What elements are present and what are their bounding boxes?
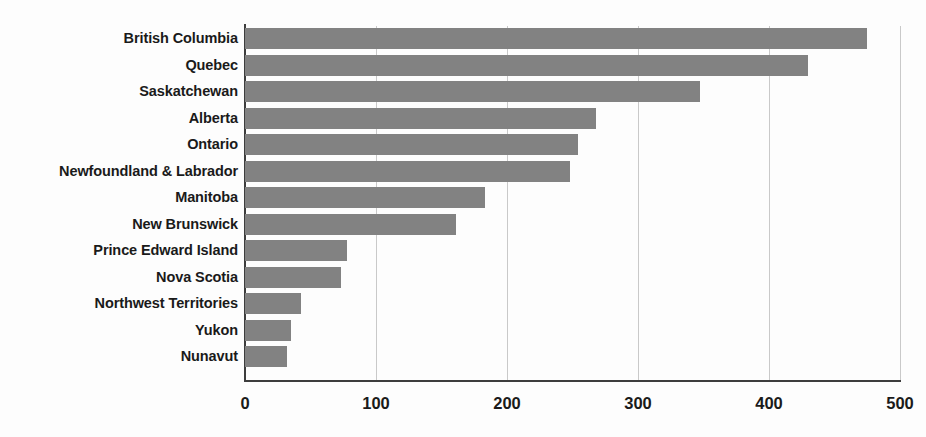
bar [245,187,485,208]
category-label: Manitoba [0,187,238,208]
category-label: Nunavut [0,346,238,367]
bar-item [245,187,485,208]
bar [245,320,291,341]
category-label: New Brunswick [0,214,238,235]
bar-item [245,134,578,155]
plot-area [245,26,900,380]
x-tick-label: 100 [362,392,390,414]
category-label: British Columbia [0,28,238,49]
bar-item [245,81,700,102]
bar [245,240,347,261]
bar [245,346,287,367]
x-tick-label: 400 [755,392,783,414]
category-label: Ontario [0,134,238,155]
bar [245,28,867,49]
x-tick-label: 200 [493,392,521,414]
gridline [900,26,901,380]
bar-item [245,320,291,341]
x-axis-line [244,380,901,382]
bar-item [245,267,341,288]
category-label: Saskatchewan [0,81,238,102]
bar [245,214,456,235]
bar [245,293,301,314]
category-label: Alberta [0,108,238,129]
category-axis-labels: British ColumbiaQuebecSaskatchewanAlbert… [0,26,238,380]
x-axis-tick-labels: 0100200300400500 [0,392,926,418]
bar-item [245,108,596,129]
category-label: Newfoundland & Labrador [0,161,238,182]
x-tick-label: 500 [886,392,914,414]
bar-item [245,55,808,76]
category-label: Yukon [0,320,238,341]
category-label: Quebec [0,55,238,76]
bar [245,161,570,182]
bar-item [245,293,301,314]
category-label: Nova Scotia [0,267,238,288]
bar [245,134,578,155]
category-label: Prince Edward Island [0,240,238,261]
bar [245,55,808,76]
bar [245,267,341,288]
bar-item [245,240,347,261]
x-tick-label: 300 [624,392,652,414]
bar [245,81,700,102]
category-label: Northwest Territories [0,293,238,314]
x-tick-label: 0 [240,392,249,414]
bar-series [245,26,900,380]
bar-item [245,28,867,49]
bar-chart: British ColumbiaQuebecSaskatchewanAlbert… [0,0,926,437]
bar [245,108,596,129]
bar-item [245,346,287,367]
bar-item [245,161,570,182]
bar-item [245,214,456,235]
